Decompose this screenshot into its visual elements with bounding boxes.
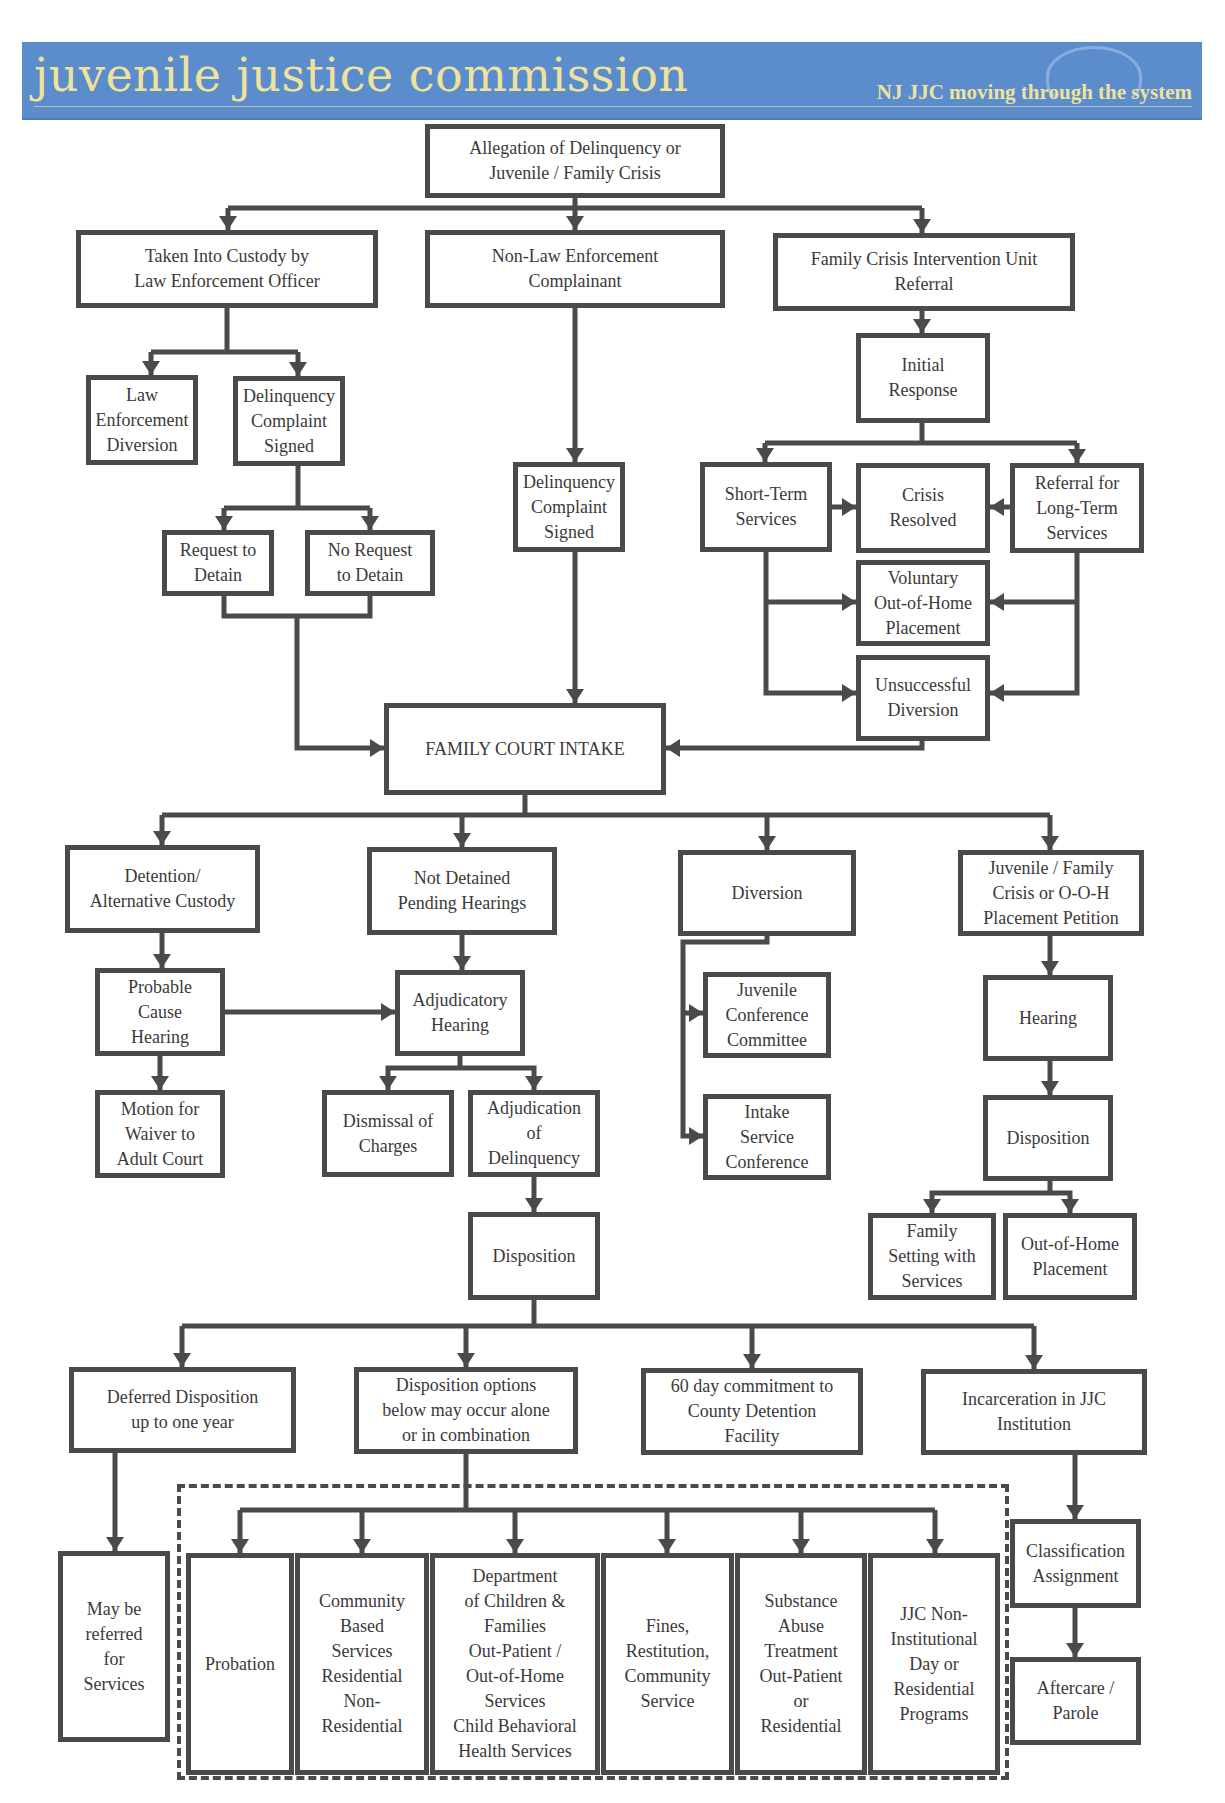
arrowhead-down-icon: [525, 1198, 543, 1212]
arrowhead-down-icon: [142, 361, 160, 375]
connector-line: [224, 596, 384, 748]
flow-box-initial-response: Initial Response: [856, 333, 990, 423]
arrowhead-down-icon: [1066, 1643, 1084, 1657]
flow-box-community-services: Community Based Services Residential Non…: [295, 1553, 429, 1775]
flow-box-referred-services: May be referred for Services: [58, 1551, 170, 1742]
arrowhead-down-icon: [913, 219, 931, 233]
arrowhead-down-icon: [743, 1354, 761, 1368]
connector-line: [666, 741, 922, 748]
flow-box-no-request-detain: No Request to Detain: [305, 530, 435, 596]
arrowhead-down-icon: [1068, 449, 1086, 463]
flow-box-family-setting: Family Setting with Services: [868, 1213, 996, 1300]
connector-line: [162, 795, 1050, 850]
arrowhead-down-icon: [1041, 961, 1059, 975]
connector-line: [932, 1181, 1070, 1213]
flow-box-request-detain: Request to Detain: [162, 530, 274, 596]
flow-box-probation: Probation: [186, 1553, 294, 1775]
flow-box-complaint-signed-1: Delinquency Complaint Signed: [233, 376, 345, 466]
flow-box-substance-abuse: Substance Abuse Treatment Out-Patient or…: [735, 1553, 867, 1775]
flow-box-disposition-1: Disposition: [468, 1212, 600, 1300]
flow-box-jcc: Juvenile Conference Committee: [703, 972, 831, 1058]
flow-box-county-detention: 60 day commitment to County Detention Fa…: [641, 1368, 863, 1455]
arrowhead-down-icon: [566, 689, 584, 703]
connector-line: [990, 553, 1077, 693]
flow-box-long-term-referral: Referral for Long-Term Services: [1010, 463, 1144, 553]
flow-box-hearing-2: Hearing: [983, 975, 1113, 1061]
arrowhead-down-icon: [153, 954, 171, 968]
arrowhead-right-icon: [370, 739, 384, 757]
flow-box-diversion: Diversion: [678, 850, 856, 936]
flow-box-fines-restitution: Fines, Restitution, Community Service: [601, 1553, 734, 1775]
flow-box-aftercare-parole: Aftercare / Parole: [1010, 1657, 1141, 1745]
flow-box-not-detained: Not Detained Pending Hearings: [367, 847, 557, 935]
arrowhead-down-icon: [215, 516, 233, 530]
arrowhead-down-icon: [923, 1199, 941, 1213]
arrowhead-down-icon: [453, 833, 471, 847]
arrowhead-down-icon: [219, 216, 237, 230]
arrowhead-down-icon: [457, 1353, 475, 1367]
flow-box-classification: Classification Assignment: [1010, 1519, 1141, 1608]
arrowhead-down-icon: [361, 516, 379, 530]
arrowhead-down-icon: [379, 1076, 397, 1090]
flow-box-taken-into-custody: Taken Into Custody by Law Enforcement Of…: [76, 230, 378, 308]
flow-box-jjc-incarceration: Incarceration in JJC Institution: [921, 1369, 1147, 1455]
flow-box-le-diversion: Law Enforcement Diversion: [86, 375, 198, 465]
arrowhead-down-icon: [1066, 1505, 1084, 1519]
arrowhead-left-icon: [990, 684, 1004, 702]
arrowhead-down-icon: [756, 448, 774, 462]
flow-box-detention-alt: Detention/ Alternative Custody: [65, 845, 260, 933]
flow-box-unsuccessful-diversion: Unsuccessful Diversion: [856, 655, 990, 741]
flow-box-disposition-options: Disposition options below may occur alon…: [354, 1367, 578, 1454]
flow-box-dismissal: Dismissal of Charges: [322, 1090, 454, 1177]
flow-box-non-law-enforcement: Non-Law Enforcement Complainant: [425, 230, 725, 308]
connector-line: [765, 423, 1077, 463]
flow-box-waiver-motion: Motion for Waiver to Adult Court: [95, 1090, 225, 1178]
flow-box-probable-cause: Probable Cause Hearing: [95, 968, 225, 1056]
arrowhead-right-icon: [842, 498, 856, 516]
flow-box-allegation: Allegation of Delinquency or Juvenile / …: [425, 124, 725, 198]
arrowhead-down-icon: [566, 216, 584, 230]
arrowhead-left-icon: [990, 498, 1004, 516]
flow-box-complaint-signed-2: Delinquency Complaint Signed: [513, 462, 625, 552]
flow-box-intake-service-conf: Intake Service Conference: [703, 1094, 831, 1180]
connector-line: [151, 308, 298, 376]
connector-line: [388, 1056, 534, 1090]
flow-box-fciu-referral: Family Crisis Intervention Unit Referral: [773, 233, 1075, 311]
connector-line: [182, 1300, 1034, 1369]
flow-box-dcf-services: Department of Children & Families Out-Pa…: [430, 1553, 600, 1775]
arrowhead-right-icon: [381, 1003, 395, 1021]
connector-line: [224, 466, 370, 530]
connector-line: [766, 552, 856, 693]
arrowhead-down-icon: [153, 831, 171, 845]
arrowhead-down-icon: [151, 1076, 169, 1090]
arrowhead-right-icon: [842, 684, 856, 702]
arrowhead-right-icon: [689, 1004, 703, 1022]
arrowhead-down-icon: [1041, 836, 1059, 850]
flow-box-short-term: Short-Term Services: [700, 462, 832, 552]
arrowhead-down-icon: [566, 448, 584, 462]
arrowhead-down-icon: [913, 319, 931, 333]
flow-box-jf-crisis-petition: Juvenile / Family Crisis or O-O-H Placem…: [958, 850, 1144, 936]
arrowhead-left-icon: [666, 739, 680, 757]
arrowhead-down-icon: [453, 956, 471, 970]
arrowhead-down-icon: [173, 1353, 191, 1367]
flow-box-crisis-resolved: Crisis Resolved: [856, 463, 990, 553]
flow-box-family-court-intake: FAMILY COURT INTAKE: [384, 703, 666, 795]
arrowhead-down-icon: [106, 1537, 124, 1551]
arrowhead-down-icon: [1025, 1355, 1043, 1369]
arrowhead-right-icon: [842, 593, 856, 611]
arrowhead-down-icon: [525, 1076, 543, 1090]
flow-box-voluntary-ooh: Voluntary Out-of-Home Placement: [856, 560, 990, 646]
flow-box-adjudicatory-hearing: Adjudicatory Hearing: [395, 970, 525, 1056]
arrowhead-down-icon: [1061, 1199, 1079, 1213]
arrowhead-down-icon: [289, 362, 307, 376]
flow-box-adjudication-delinquency: Adjudication of Delinquency: [468, 1090, 600, 1177]
flow-box-deferred-disposition: Deferred Disposition up to one year: [69, 1367, 296, 1453]
arrowhead-left-icon: [990, 593, 1004, 611]
flow-box-jjc-non-institutional: JJC Non- Institutional Day or Residentia…: [868, 1553, 1000, 1775]
flow-box-ooh-placement: Out-of-Home Placement: [1003, 1213, 1137, 1300]
flow-box-disposition-2: Disposition: [983, 1095, 1113, 1181]
arrowhead-down-icon: [1041, 1081, 1059, 1095]
arrowhead-right-icon: [689, 1127, 703, 1145]
arrowhead-down-icon: [758, 836, 776, 850]
